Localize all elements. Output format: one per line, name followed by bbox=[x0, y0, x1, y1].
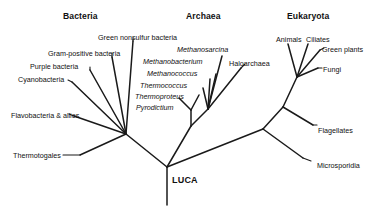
branch-ciliates bbox=[297, 44, 308, 77]
taxon-label-microsporidia: Microsporidia bbox=[317, 162, 360, 169]
phylogenetic-tree-figure: BacteriaArchaeaEukaryota Green nonsulfur… bbox=[0, 0, 378, 210]
taxon-label-animals: Animals bbox=[276, 36, 302, 43]
taxon-label-gram-positive-bacteria: Gram-positive bacteria bbox=[48, 50, 120, 57]
root-label-luca: LUCA bbox=[172, 176, 198, 185]
euk-deep-stem bbox=[263, 107, 283, 129]
branch-thermococcus bbox=[203, 88, 208, 109]
archaea-euryarchaeota-stem bbox=[191, 109, 208, 126]
taxon-label-fungi: Fungi bbox=[323, 66, 341, 73]
branch-microsporidia bbox=[263, 129, 303, 158]
taxon-label-methanococcus: Methanococcus bbox=[147, 70, 197, 77]
taxon-label-green-plants: Green plants bbox=[322, 46, 363, 53]
taxon-label-purple-bacteria: Purple bacteria bbox=[30, 63, 78, 70]
taxon-label-thermococcus: Thermococcus bbox=[140, 82, 187, 89]
taxon-label-ciliates: Ciliates bbox=[306, 36, 330, 43]
taxon-label-thermotogales: Thermotogales bbox=[13, 152, 61, 159]
branch-green-nonsulfur bbox=[126, 41, 133, 134]
domain-title-archaea: Archaea bbox=[186, 12, 221, 21]
taxon-label-cyanobacteria: Cyanobacteria bbox=[18, 76, 64, 83]
branch-thermotogales bbox=[80, 134, 126, 155]
taxon-label-green-nonsulfur-bacteria: Green nonsulfur bacteria bbox=[98, 34, 177, 41]
taxon-label-methanosarcina: Methanosarcina bbox=[177, 46, 228, 53]
backbone-eukaryota bbox=[167, 129, 263, 167]
taxon-label-flagellates: Flagellates bbox=[318, 127, 353, 134]
branch-flagellates bbox=[283, 107, 313, 125]
taxon-label-haloarchaea: Haloarchaea bbox=[229, 60, 270, 67]
branch-thermoproteus bbox=[191, 95, 199, 110]
taxon-label-thermoproteus: Thermoproteus bbox=[135, 93, 184, 100]
taxon-label-methanobacterium: Methanobacterium bbox=[143, 58, 203, 65]
domain-title-eukaryota: Eukaryota bbox=[287, 12, 329, 21]
taxon-label-pyrodictium: Pyrodictium bbox=[136, 104, 174, 111]
backbone-archaea bbox=[167, 126, 191, 167]
leader-microsporidia bbox=[303, 158, 311, 161]
branch-green-plants bbox=[297, 50, 320, 77]
domain-title-bacteria: Bacteria bbox=[63, 12, 98, 21]
taxon-label-flavobacteria-and-allies: Flavobacteria & allies bbox=[11, 112, 79, 119]
backbone-bacteria bbox=[126, 134, 167, 167]
euk-crown-stem bbox=[283, 77, 297, 107]
branch-animals bbox=[288, 44, 297, 77]
leader-cyanobacteria bbox=[68, 80, 72, 82]
